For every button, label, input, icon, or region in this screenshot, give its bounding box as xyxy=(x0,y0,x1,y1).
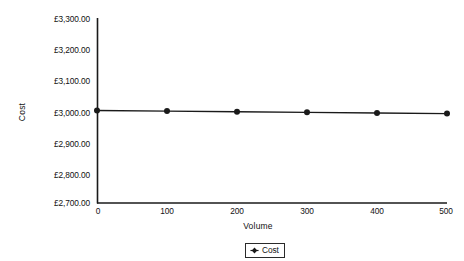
chart-legend[interactable]: Cost xyxy=(245,243,285,258)
data-point[interactable] xyxy=(444,111,450,117)
data-point[interactable] xyxy=(94,108,100,114)
legend-entry-label: Cost xyxy=(262,246,279,254)
data-series-layer xyxy=(94,108,450,117)
diamond-marker-icon xyxy=(250,246,259,255)
data-point[interactable] xyxy=(374,110,380,116)
data-point[interactable] xyxy=(234,109,240,115)
cost-volume-line-chart: Cost £3,300.00 £3,200.00 £3,100.00 £3,00… xyxy=(0,0,464,261)
plot-area xyxy=(0,0,464,261)
data-point[interactable] xyxy=(304,109,310,115)
data-point[interactable] xyxy=(164,108,170,114)
series-line-cost xyxy=(97,111,447,114)
